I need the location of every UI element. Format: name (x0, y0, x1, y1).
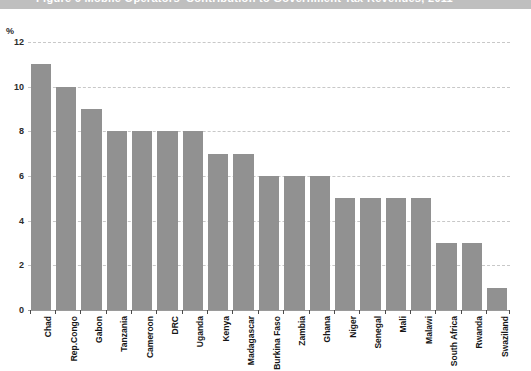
bar (284, 176, 304, 310)
bar (81, 109, 101, 310)
bar (56, 87, 76, 310)
x-tick-label: Swaziland (501, 316, 510, 357)
x-tick-label: Zambia (298, 316, 307, 346)
gridline-12 (28, 42, 510, 43)
bar (259, 176, 279, 310)
x-tick (435, 310, 436, 314)
x-tick-label: Mali (399, 316, 408, 333)
x-tick (309, 310, 310, 314)
figure-title-band: Figure 6 Mobile Operators' Contribution … (0, 0, 531, 9)
x-tick (106, 310, 107, 314)
x-tick-label: DRC (171, 316, 180, 334)
x-tick (30, 310, 31, 314)
x-tick (359, 310, 360, 314)
x-tick (410, 310, 411, 314)
bar (436, 243, 456, 310)
bar (157, 131, 177, 310)
x-tick (156, 310, 157, 314)
x-axis: ChadRep.CongoGabonTanzaniaCameroonDRCUga… (28, 310, 510, 371)
gridline-10 (28, 87, 510, 88)
x-tick (55, 310, 56, 314)
bar (107, 131, 127, 310)
bar (208, 154, 228, 310)
bar (462, 243, 482, 310)
y-tick-label-2: 2 (2, 261, 24, 270)
x-tick-label: Ghana (323, 316, 332, 342)
x-tick (258, 310, 259, 314)
y-axis: 024681012 (0, 42, 24, 310)
bar (360, 198, 380, 310)
y-tick-label-12: 12 (2, 38, 24, 47)
bar (233, 154, 253, 310)
x-tick (334, 310, 335, 314)
x-tick (80, 310, 81, 314)
x-tick-label: Tanzania (120, 316, 129, 352)
y-tick-label-8: 8 (2, 127, 24, 136)
bar (183, 131, 203, 310)
y-tick-label-4: 4 (2, 216, 24, 225)
x-tick (509, 310, 510, 314)
bar (310, 176, 330, 310)
x-tick-label: Kenya (222, 316, 231, 342)
bar (487, 288, 507, 310)
x-tick (486, 310, 487, 314)
x-tick (207, 310, 208, 314)
y-axis-unit-label: % (6, 26, 14, 36)
figure-title: Figure 6 Mobile Operators' Contribution … (36, 0, 453, 4)
x-tick-label: Uganda (196, 316, 205, 347)
x-tick-label: South Africa (450, 316, 459, 366)
bar (386, 198, 406, 310)
x-tick-label: Rwanda (475, 316, 484, 349)
y-tick-label-6: 6 (2, 172, 24, 181)
bar (132, 131, 152, 310)
x-tick-label: Senegal (374, 316, 383, 349)
plot-area (28, 42, 510, 310)
x-tick-label: Rep.Congo (70, 316, 79, 361)
x-tick (182, 310, 183, 314)
x-tick (131, 310, 132, 314)
x-tick-label: Niger (349, 316, 358, 338)
bar (31, 64, 51, 310)
x-tick-label: Cameroon (146, 316, 155, 358)
x-tick-label: Burkina Faso (273, 316, 282, 370)
bar (411, 198, 431, 310)
x-tick-label: Gabon (95, 316, 104, 343)
x-tick (283, 310, 284, 314)
x-tick-label: Malawi (425, 316, 434, 344)
y-tick-label-10: 10 (2, 82, 24, 91)
bar (335, 198, 355, 310)
x-tick (232, 310, 233, 314)
y-tick-label-0: 0 (2, 306, 24, 315)
bar-chart: % 024681012 ChadRep.CongoGabonTanzaniaCa… (0, 9, 531, 371)
x-tick (461, 310, 462, 314)
x-tick-label: Chad (44, 316, 53, 337)
x-tick (385, 310, 386, 314)
x-tick-label: Madagascar (247, 316, 256, 365)
